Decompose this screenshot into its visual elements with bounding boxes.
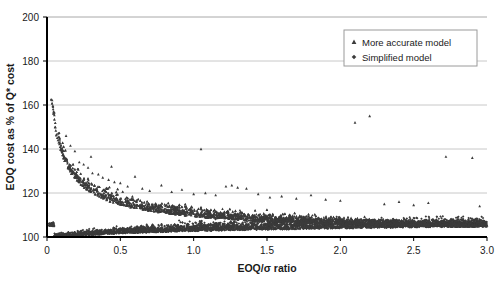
x-tick-label: 0 [44, 245, 50, 256]
chart-legend: More accurate modelSimplified model [344, 30, 477, 66]
x-tick-label: 1.0 [187, 245, 201, 256]
x-axis-title: EOQ/σ ratio [237, 262, 296, 274]
chart-figure: 00.51.01.52.02.53.0 100120140160180200 E… [0, 0, 503, 284]
y-tick-label: 100 [22, 232, 39, 243]
y-axis-title: EOQ cost as % of Q* cost [4, 63, 16, 191]
x-tick-label: 3.0 [480, 245, 494, 256]
x-tick-label: 0.5 [113, 245, 127, 256]
y-tick-label: 180 [22, 56, 39, 67]
y-tick-label: 140 [22, 144, 39, 155]
x-tick-label: 2.0 [333, 245, 347, 256]
legend-label: Simplified model [362, 52, 432, 63]
x-tick-label: 1.5 [260, 245, 274, 256]
x-tick-label: 2.5 [407, 245, 421, 256]
y-tick-label: 200 [22, 12, 39, 23]
legend-label: More accurate model [362, 37, 451, 48]
scatter-plot: 00.51.01.52.02.53.0 100120140160180200 E… [0, 0, 503, 284]
y-tick-label: 160 [22, 100, 39, 111]
y-tick-label: 120 [22, 188, 39, 199]
